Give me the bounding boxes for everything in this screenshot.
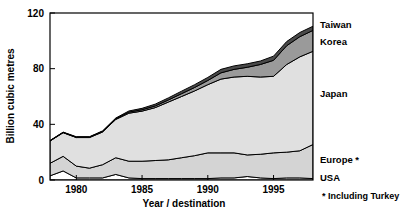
x-axis-title: Year / destination xyxy=(143,198,226,209)
x-tick-label: 1995 xyxy=(262,184,285,195)
chart-screenshot: 04080120 1980198519901995 Billion cubic … xyxy=(0,0,401,219)
x-tick-label: 1985 xyxy=(131,184,154,195)
y-tick-label: 40 xyxy=(33,119,45,130)
series-label-europe: Europe * xyxy=(320,154,359,165)
series-label-korea: Korea xyxy=(320,36,348,47)
y-axis-title: Billion cubic metres xyxy=(5,48,16,143)
footnote-including-turkey: * Including Turkey xyxy=(322,191,399,201)
x-tick-label: 1990 xyxy=(197,184,220,195)
series-label-usa: USA xyxy=(320,172,340,183)
y-tick-label: 120 xyxy=(27,8,44,19)
y-tick-label: 0 xyxy=(38,175,44,186)
series-label-taiwan: Taiwan xyxy=(320,19,352,30)
stacked-area-chart: 04080120 1980198519901995 Billion cubic … xyxy=(0,0,401,219)
y-tick-label: 80 xyxy=(33,63,45,74)
series-label-japan: Japan xyxy=(320,88,348,99)
x-tick-label: 1980 xyxy=(65,184,88,195)
